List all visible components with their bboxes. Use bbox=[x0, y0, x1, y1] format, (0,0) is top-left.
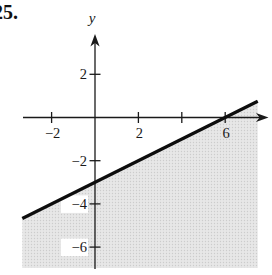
y-tick-label: −2 bbox=[72, 153, 87, 169]
inequality-graph: −2262−2−4−6 bbox=[0, 0, 272, 275]
y-tick-label: 2 bbox=[80, 66, 87, 82]
y-tick-label: −6 bbox=[72, 239, 87, 255]
x-tick-label: 6 bbox=[223, 125, 230, 141]
y-axis-label: y bbox=[85, 10, 99, 27]
y-tick-label: −4 bbox=[72, 196, 88, 212]
figure: 25. −2262−2−4−6 y bbox=[0, 0, 272, 275]
x-tick-label: −2 bbox=[45, 125, 60, 141]
x-tick-label: 2 bbox=[136, 125, 143, 141]
